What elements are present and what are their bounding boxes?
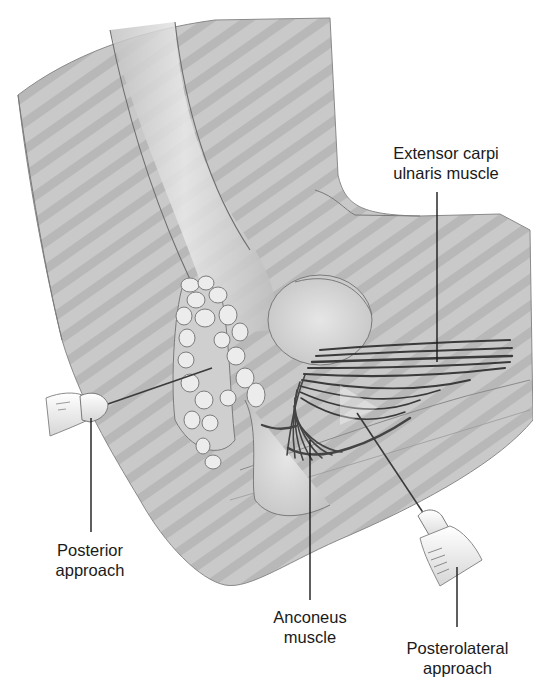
label-posterior-approach: Posterior approach <box>30 540 150 580</box>
label-line: Extensor carpi <box>372 143 520 163</box>
label-line: approach <box>30 560 150 580</box>
label-anconeus-muscle: Anconeus muscle <box>255 607 365 647</box>
label-extensor-carpi-ulnaris-muscle: Extensor carpi ulnaris muscle <box>372 143 520 183</box>
label-line: muscle <box>255 627 365 647</box>
label-line: Posterior <box>30 540 150 560</box>
label-line: approach <box>385 658 530 678</box>
label-posterolateral-approach: Posterolateral approach <box>385 638 530 678</box>
label-line: Posterolateral <box>385 638 530 658</box>
label-line: Anconeus <box>255 607 365 627</box>
label-line: ulnaris muscle <box>372 163 520 183</box>
elbow-injection-illustration <box>0 0 533 690</box>
